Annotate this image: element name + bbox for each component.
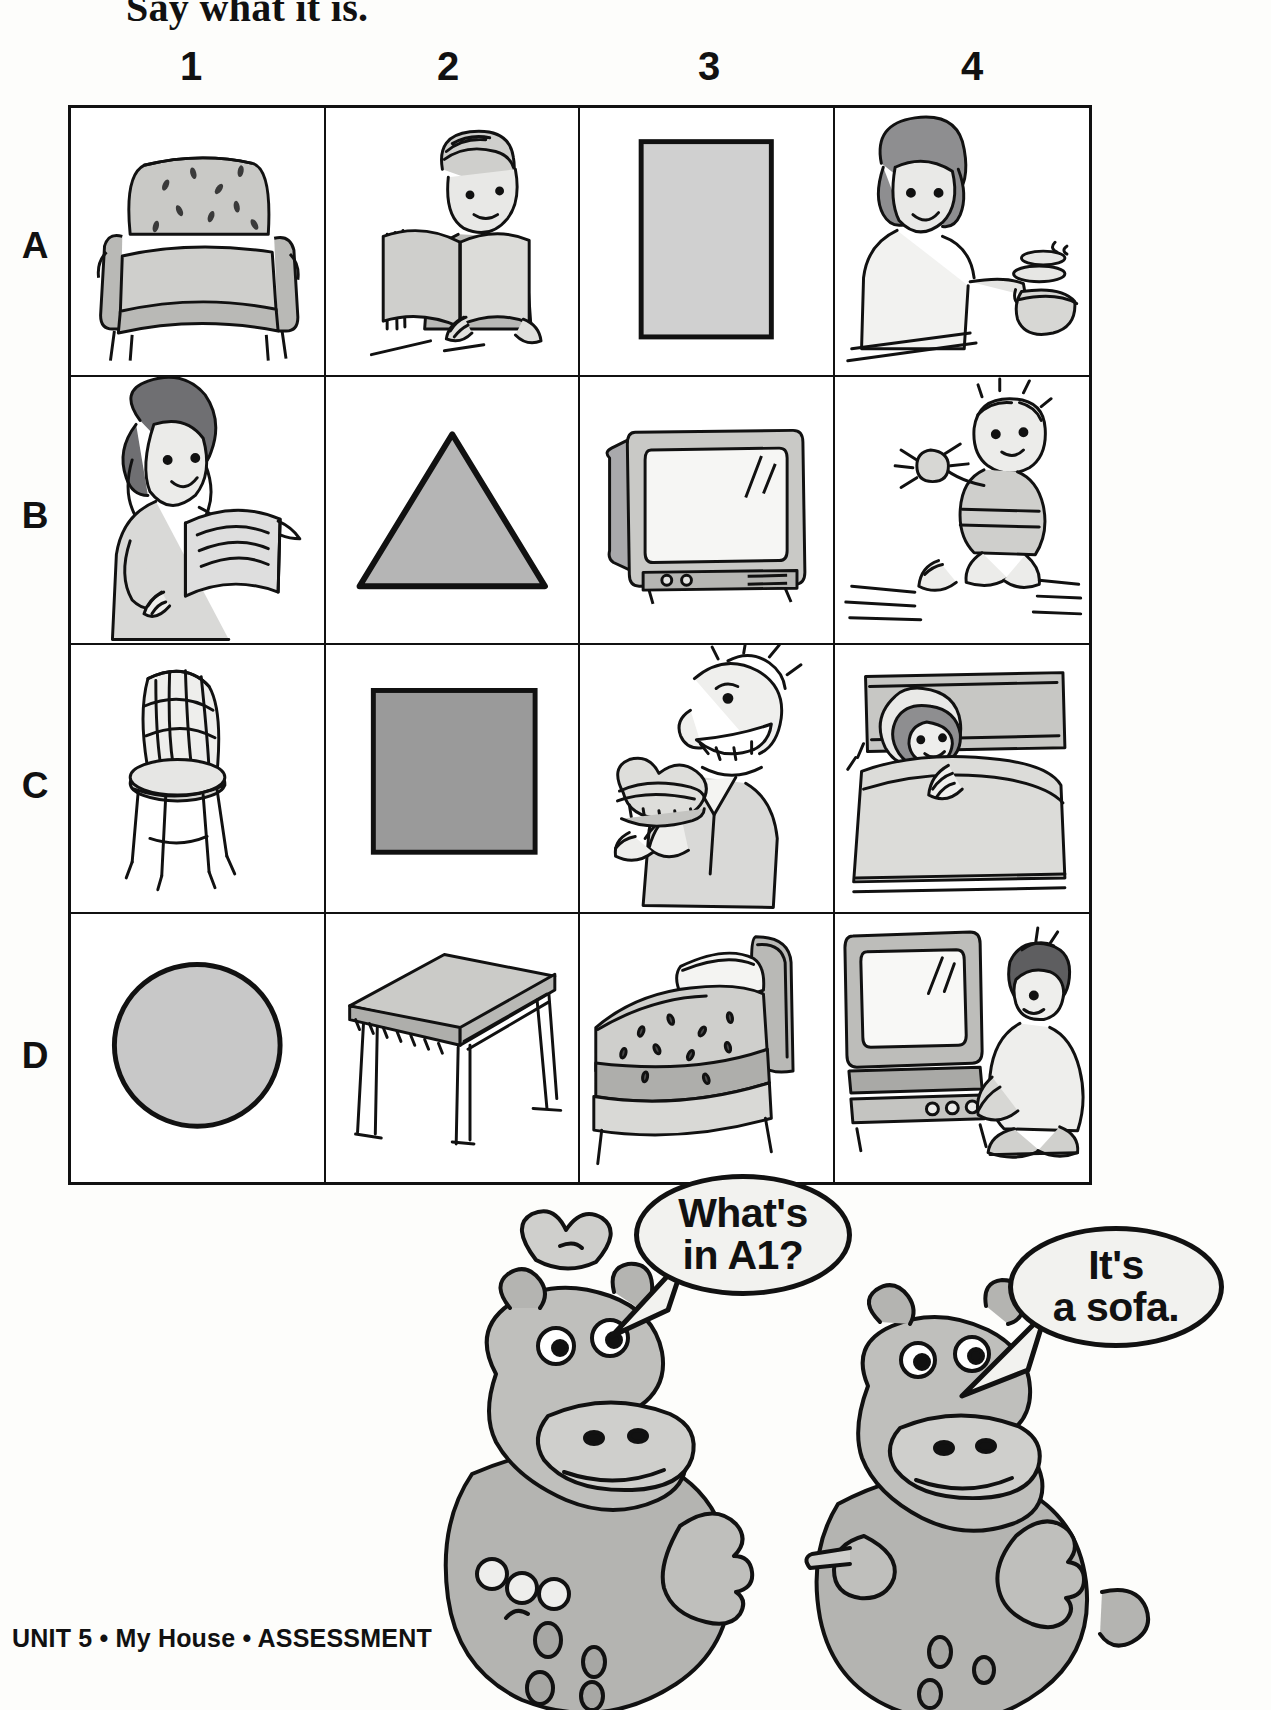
row-header-a: A (12, 225, 58, 267)
grid-cell-d4[interactable] (835, 914, 1090, 1183)
grid-cell-b2[interactable] (326, 377, 581, 646)
television-illustration (580, 377, 833, 644)
triangle-shape (326, 377, 579, 644)
grid-cell-b3[interactable] (580, 377, 835, 646)
picture-grid (68, 105, 1092, 1185)
page-footer: UNIT 5 • My House • ASSESSMENT (12, 1624, 432, 1653)
column-header-4: 4 (942, 44, 1002, 89)
circle-shape (71, 914, 324, 1183)
grid-cell-c2[interactable] (326, 645, 581, 914)
square-shape (326, 645, 579, 912)
grid-cell-a3[interactable] (580, 108, 835, 377)
question-line-1: What's (678, 1193, 808, 1235)
sofa-illustration (71, 108, 324, 375)
speech-bubble-answer: It's a sofa. (1008, 1226, 1224, 1348)
woman-reading-illustration (71, 377, 324, 644)
chair-illustration (71, 645, 324, 912)
rectangle-shape (580, 108, 833, 375)
column-header-1: 1 (161, 44, 221, 89)
grid-cell-c1[interactable] (71, 645, 326, 914)
question-line-2: in A1? (683, 1235, 804, 1277)
grid-cell-b1[interactable] (71, 377, 326, 646)
worksheet-page: Say what it is. 1 2 3 4 A B C D (0, 0, 1271, 1710)
grid-cell-d2[interactable] (326, 914, 581, 1183)
table-illustration (326, 914, 579, 1183)
grid-cell-d1[interactable] (71, 914, 326, 1183)
row-header-d: D (12, 1035, 58, 1077)
answer-line-2: a sofa. (1053, 1287, 1179, 1329)
column-header-2: 2 (418, 44, 478, 89)
boy-reading-illustration (326, 108, 579, 375)
man-eating-illustration (580, 645, 833, 912)
grid-cell-c4[interactable] (835, 645, 1090, 914)
answer-line-1: It's (1088, 1245, 1144, 1287)
bed-illustration (580, 914, 833, 1183)
grid-cell-a2[interactable] (326, 108, 581, 377)
grid-cell-b4[interactable] (835, 377, 1090, 646)
baby-rattle-illustration (835, 377, 1090, 644)
grid-cell-d3[interactable] (580, 914, 835, 1183)
page-title: Say what it is. (126, 0, 368, 31)
grid-cell-a4[interactable] (835, 108, 1090, 377)
row-header-b: B (12, 495, 58, 537)
speech-bubble-question: What's in A1? (634, 1174, 852, 1296)
grid-cell-a1[interactable] (71, 108, 326, 377)
row-header-c: C (12, 765, 58, 807)
column-header-3: 3 (679, 44, 739, 89)
grid-cell-c3[interactable] (580, 645, 835, 914)
woman-cooking-illustration (835, 108, 1090, 375)
girl-sleeping-illustration (835, 645, 1090, 912)
boy-watching-tv-illustration (835, 914, 1090, 1183)
